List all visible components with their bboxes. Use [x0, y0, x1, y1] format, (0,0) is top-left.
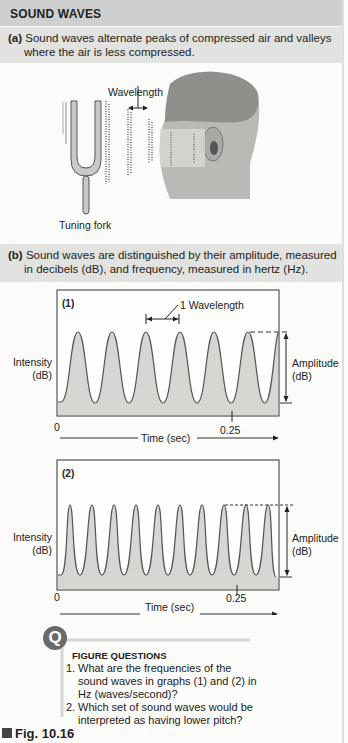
graph-2-x0: 0: [54, 591, 60, 603]
part-b-text: Sound waves are distinguished by their a…: [24, 249, 337, 275]
graph-1-ylabel: Intensity (dB): [5, 356, 52, 382]
graph-1-xtick: 0.25: [220, 424, 240, 436]
figure-title: SOUND WAVES: [10, 7, 101, 21]
title-band: SOUND WAVES: [0, 0, 342, 26]
one-wavelength-label: 1 Wavelength: [180, 299, 244, 311]
question-item-1: 1. What are the frequencies of the sound…: [66, 662, 261, 701]
part-a-text: Sound waves alternate peaks of compresse…: [24, 32, 331, 58]
graph-1-xlabel: Time (sec): [141, 432, 190, 444]
part-b-band: (b) Sound waves are distinguished by the…: [0, 244, 342, 282]
tuning-fork-label: Tuning fork: [59, 219, 111, 231]
graph-2-xtick: 0.25: [226, 592, 246, 604]
graph-1-amplitude-label: Amplitude (dB): [292, 357, 339, 383]
figure-number: Fig. 10.16: [2, 726, 74, 741]
graph-1-label: (1): [62, 298, 74, 309]
part-b-label: (b): [8, 249, 23, 261]
question-item-2: 2. Which set of sound waves would be int…: [66, 701, 261, 727]
question-q-icon: Q: [43, 626, 67, 650]
part-a-band: (a) Sound waves alternate peaks of compr…: [0, 27, 342, 63]
page-edge-rule: [342, 0, 344, 743]
part-a-label: (a): [8, 32, 22, 44]
graph-2-xlabel: Time (sec): [145, 601, 194, 613]
graph-2-label: (2): [62, 468, 74, 479]
tuning-fork-illustration: [0, 64, 342, 244]
wavelength-label-a: Wavelength: [108, 86, 163, 98]
questions-list: 1. What are the frequencies of the sound…: [66, 662, 261, 727]
graph-1-x0: 0: [54, 421, 60, 433]
figure-square-icon: [2, 728, 12, 738]
questions-heading: FIGURE QUESTIONS: [72, 650, 166, 661]
part-b-caption: (b) Sound waves are distinguished by the…: [8, 248, 344, 276]
graph-2-amplitude-label: Amplitude (dB): [292, 532, 339, 558]
part-a-caption: (a) Sound waves alternate peaks of compr…: [8, 31, 344, 59]
graph-2-ylabel: Intensity (dB): [5, 531, 52, 557]
